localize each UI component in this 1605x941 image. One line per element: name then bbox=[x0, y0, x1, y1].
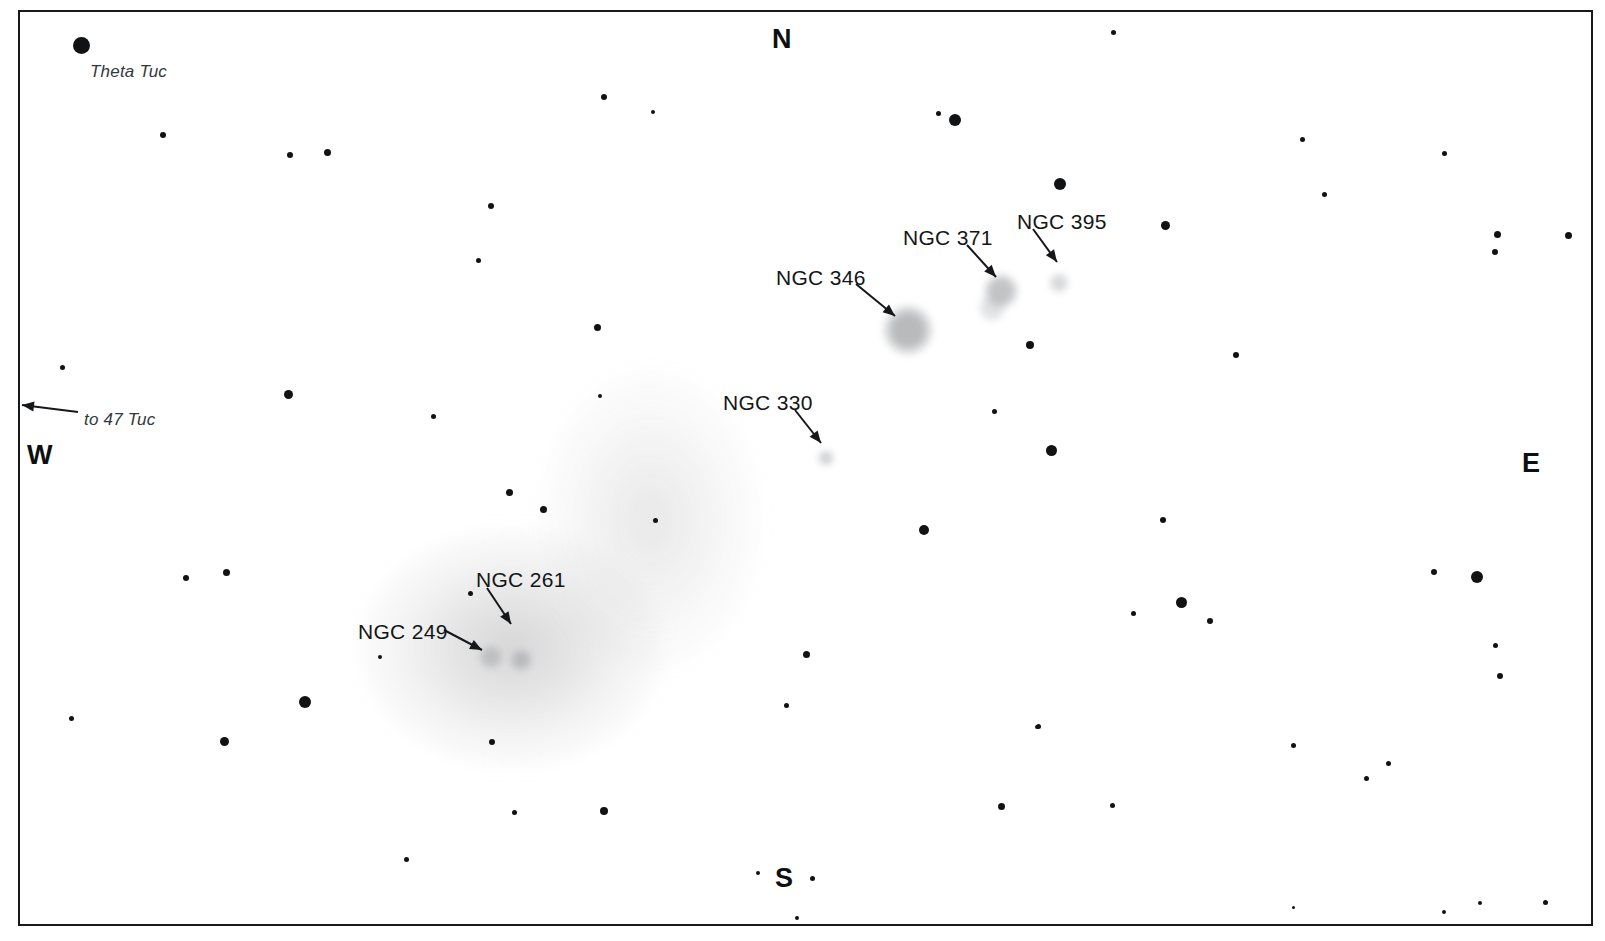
label-ngc-261: NGC 261 bbox=[476, 568, 566, 592]
star-point bbox=[1543, 900, 1548, 905]
label-to-47-tuc: to 47 Tuc bbox=[84, 410, 155, 430]
star-point bbox=[183, 575, 189, 581]
star-point bbox=[1364, 776, 1369, 781]
star-point bbox=[949, 114, 961, 126]
star-point bbox=[998, 803, 1005, 810]
label-theta-tuc: Theta Tuc bbox=[90, 62, 167, 82]
star-point bbox=[598, 394, 602, 398]
star-point bbox=[1322, 192, 1327, 197]
star-point bbox=[160, 132, 166, 138]
star-point bbox=[651, 110, 655, 114]
label-ngc-249: NGC 249 bbox=[358, 620, 448, 644]
star-point bbox=[1161, 221, 1170, 230]
star-point bbox=[284, 390, 293, 399]
theta-tuc-star bbox=[73, 37, 90, 54]
label-ngc-330: NGC 330 bbox=[723, 391, 813, 415]
smc-finder-chart: g g Theta Tucto 47 TucNGC 346NGC 371NGC … bbox=[0, 0, 1605, 941]
star-point bbox=[1492, 249, 1498, 255]
star-point bbox=[756, 871, 760, 875]
star-point bbox=[1478, 901, 1482, 905]
star-point bbox=[468, 591, 473, 596]
cardinal-east: E bbox=[1522, 448, 1541, 479]
star-point bbox=[1493, 643, 1498, 648]
star-point bbox=[69, 716, 74, 721]
star-point bbox=[1176, 597, 1187, 608]
star-point bbox=[1046, 445, 1057, 456]
star-point bbox=[223, 569, 230, 576]
star-point bbox=[404, 857, 409, 862]
star-point bbox=[601, 94, 607, 100]
cardinal-south: S bbox=[775, 863, 794, 894]
star-point bbox=[1471, 571, 1483, 583]
cardinal-west: W bbox=[27, 440, 53, 471]
star-point bbox=[992, 409, 997, 414]
star-point bbox=[1442, 910, 1446, 914]
star-point bbox=[1494, 231, 1501, 238]
star-point bbox=[1300, 137, 1305, 142]
label-ngc-395: NGC 395 bbox=[1017, 210, 1107, 234]
star-point bbox=[810, 876, 815, 881]
star-point bbox=[476, 258, 481, 263]
star-point bbox=[1131, 611, 1136, 616]
star-point bbox=[1233, 352, 1239, 358]
star-point bbox=[784, 703, 789, 708]
star-point bbox=[936, 111, 941, 116]
star-point bbox=[1026, 341, 1034, 349]
star-point bbox=[594, 324, 601, 331]
star-point bbox=[1292, 906, 1295, 909]
star-point bbox=[540, 506, 547, 513]
star-point bbox=[1386, 761, 1391, 766]
star-point bbox=[600, 807, 608, 815]
star-point bbox=[512, 810, 517, 815]
star-point bbox=[795, 916, 799, 920]
star-point bbox=[60, 365, 65, 370]
star-point bbox=[287, 152, 293, 158]
star-point bbox=[919, 525, 929, 535]
star-point bbox=[1111, 30, 1116, 35]
star-point bbox=[324, 149, 331, 156]
label-ngc-371: NGC 371 bbox=[903, 226, 993, 250]
chart-border-frame bbox=[18, 10, 1593, 926]
star-point bbox=[506, 489, 513, 496]
label-ngc-346: NGC 346 bbox=[776, 266, 866, 290]
star-point bbox=[1110, 803, 1115, 808]
star-point bbox=[220, 737, 229, 746]
star-point bbox=[653, 518, 658, 523]
star-point bbox=[1565, 232, 1572, 239]
star-point bbox=[1291, 743, 1296, 748]
star-point bbox=[803, 651, 810, 658]
star-point bbox=[1160, 517, 1166, 523]
star-point bbox=[1442, 151, 1447, 156]
star-point bbox=[1054, 178, 1066, 190]
star-point bbox=[1431, 569, 1437, 575]
star-point bbox=[489, 739, 495, 745]
star-point bbox=[1207, 618, 1213, 624]
cardinal-north: N bbox=[772, 24, 792, 55]
star-point bbox=[378, 655, 382, 659]
star-point bbox=[299, 696, 311, 708]
star-point bbox=[488, 203, 494, 209]
star-point bbox=[431, 414, 436, 419]
star-point bbox=[1035, 725, 1039, 729]
star-point bbox=[1497, 673, 1503, 679]
